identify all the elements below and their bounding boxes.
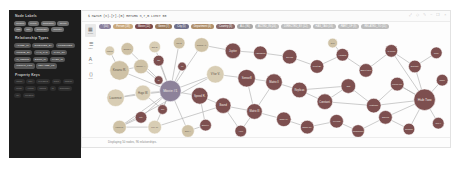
graph-node[interactable]: Emil E.: [149, 41, 161, 53]
sidebar-chip[interactable]: LIVES_IN: [50, 57, 65, 62]
graph-node[interactable]: Hub Two: [414, 89, 436, 111]
graph-node[interactable]: Knock Kn.: [390, 77, 404, 91]
graph-node[interactable]: Replicas: [292, 82, 308, 98]
graph-node[interactable]: Laurence: [107, 89, 125, 107]
sidebar-chip[interactable]: url: [14, 93, 21, 98]
graph-node[interactable]: Sense8: [238, 69, 256, 87]
graph-node[interactable]: Speed R.: [191, 88, 208, 105]
graph-node[interactable]: Gen-X: [432, 117, 444, 129]
graph-node[interactable]: Watcher: [366, 98, 381, 113]
graph-node[interactable]: Dept: [328, 38, 338, 48]
legend-chip[interactable]: ALL (96): [237, 24, 253, 30]
table-view-button[interactable]: ☰Table: [85, 39, 96, 52]
sidebar-chip[interactable]: HAS_TAG: [34, 50, 50, 55]
legend-chip[interactable]: Movie (12): [135, 24, 153, 30]
sidebar-chip[interactable]: rating: [37, 86, 48, 91]
graph-node[interactable]: Siberia: [379, 110, 393, 124]
minimize-icon[interactable]: −: [429, 14, 433, 18]
legend-chip[interactable]: PART_OF (9): [338, 24, 360, 30]
graph-node[interactable]: Aeon: [235, 125, 247, 137]
graph-node[interactable]: Movie #1: [160, 80, 182, 102]
graph-node[interactable]: Joel S.: [173, 37, 185, 49]
sidebar-chip[interactable]: Movie: [28, 21, 39, 26]
legend-chip[interactable]: Person (18): [113, 24, 133, 30]
graph-view-button[interactable]: ▦Graph: [85, 24, 96, 37]
sidebar-chip[interactable]: ACTED_IN: [14, 43, 31, 48]
graph-node[interactable]: Keanu R.: [110, 61, 130, 81]
graph-node[interactable]: Lana W.: [113, 120, 127, 134]
graph-node[interactable]: Assassins: [253, 46, 267, 60]
legend-chip[interactable]: DIRECTED_BY (12): [281, 24, 310, 30]
sidebar-chip[interactable]: DIRECTED_BY: [32, 43, 54, 48]
sidebar-chip[interactable]: Tag: [14, 27, 22, 32]
sidebar-chip[interactable]: WROTE_BY: [14, 50, 32, 55]
sidebar-chip[interactable]: PART_OF: [51, 50, 67, 55]
graph-node[interactable]: Gift: [341, 79, 356, 94]
graph-node[interactable]: Gloria F.: [121, 43, 134, 56]
graph-node[interactable]: Cloud At.: [194, 38, 209, 53]
graph-node[interactable]: Ct: [154, 76, 163, 85]
graph-node[interactable]: 47 Ronin: [385, 44, 398, 57]
graph-node[interactable]: Whole: [436, 74, 448, 86]
graph-node[interactable]: Exposed: [403, 123, 415, 135]
graph-node[interactable]: Sweet Nov: [359, 64, 373, 78]
sidebar-chip[interactable]: id: [50, 86, 56, 91]
graph-node[interactable]: Bound: [215, 98, 231, 114]
fullscreen-icon[interactable]: ❐: [436, 14, 440, 18]
legend-chip[interactable]: RELATED_TO (11): [361, 24, 389, 30]
graph-node[interactable]: Destinat.: [408, 60, 421, 73]
sidebar-chip[interactable]: title: [26, 79, 34, 84]
legend-chip[interactable]: * (50): [99, 24, 111, 30]
pin-icon[interactable]: ◇: [415, 14, 419, 18]
sidebar-chip[interactable]: released: [36, 79, 50, 84]
graph-node[interactable]: Tag: [153, 55, 164, 66]
graph-node[interactable]: V for V.: [207, 66, 225, 84]
sidebar-chip[interactable]: WORKS_FOR: [14, 63, 35, 68]
sidebar-chip[interactable]: Person: [14, 21, 26, 26]
graph-node[interactable]: Jupiter: [225, 43, 241, 59]
graph-node[interactable]: Matrix II: [266, 74, 283, 91]
graph-node[interactable]: Lilly W.: [148, 120, 162, 134]
edit-icon[interactable]: ✎: [422, 14, 426, 18]
expand-icon[interactable]: ⤢: [408, 14, 412, 18]
sidebar-chip[interactable]: Character: [41, 21, 56, 26]
legend-chip[interactable]: Genre (7): [155, 24, 172, 30]
graph-node[interactable]: Thumbsuck: [352, 125, 365, 138]
graph-node[interactable]: Hugo W.: [135, 85, 151, 101]
graph-node[interactable]: Gen: [158, 105, 168, 115]
graph-node[interactable]: Marcus: [105, 46, 115, 56]
text-view-button[interactable]: AText: [85, 54, 96, 67]
sidebar-chip[interactable]: PRODUCED: [56, 43, 75, 48]
graph-node[interactable]: Devils: [282, 49, 297, 64]
sidebar-chip[interactable]: Genre: [57, 21, 68, 26]
graph-node[interactable]: Hardball: [336, 48, 349, 61]
legend-chip[interactable]: ACTED_IN (24): [255, 24, 279, 30]
graph-node[interactable]: Carrie A.: [134, 59, 149, 74]
sidebar-chip[interactable]: IS_GENRE: [14, 57, 31, 62]
graph-visualization[interactable]: Movie #1Keanu R.LaurenceCarrie A.Hugo W.…: [98, 36, 450, 140]
legend-chip[interactable]: Department (4): [191, 24, 214, 30]
legend-chip[interactable]: HAS_TAG (16): [313, 24, 336, 30]
sidebar-chip[interactable]: roles: [14, 86, 24, 91]
graph-canvas[interactable]: Movie #1Keanu R.LaurenceCarrie A.Hugo W.…: [98, 36, 450, 140]
sidebar-chip[interactable]: City: [24, 27, 33, 32]
graph-node[interactable]: City: [135, 111, 147, 123]
sidebar-chip[interactable]: created: [23, 93, 36, 98]
graph-node[interactable]: Feeling: [330, 114, 344, 128]
sidebar-chip[interactable]: summary: [58, 86, 73, 91]
graph-node[interactable]: Tg: [178, 62, 187, 71]
graph-node[interactable]: Street K.: [200, 119, 212, 131]
graph-node[interactable]: Tom A.: [182, 125, 195, 138]
graph-node[interactable]: Constant.: [317, 94, 333, 110]
graph-node[interactable]: John W.: [276, 112, 291, 127]
close-icon[interactable]: ×: [443, 14, 447, 18]
sidebar-chip[interactable]: Country: [51, 27, 64, 32]
sidebar-chip[interactable]: votes: [25, 86, 35, 91]
sidebar-chip[interactable]: RELATED_TO: [36, 63, 57, 68]
graph-node[interactable]: Point Br.: [310, 60, 324, 74]
legend-chip[interactable]: City (5): [174, 24, 188, 30]
sidebar-chip[interactable]: Company: [34, 27, 49, 32]
sidebar-chip[interactable]: tagline: [63, 79, 75, 84]
sidebar-chip[interactable]: BORN_IN: [33, 57, 49, 62]
sidebar-chip[interactable]: born: [52, 79, 61, 84]
